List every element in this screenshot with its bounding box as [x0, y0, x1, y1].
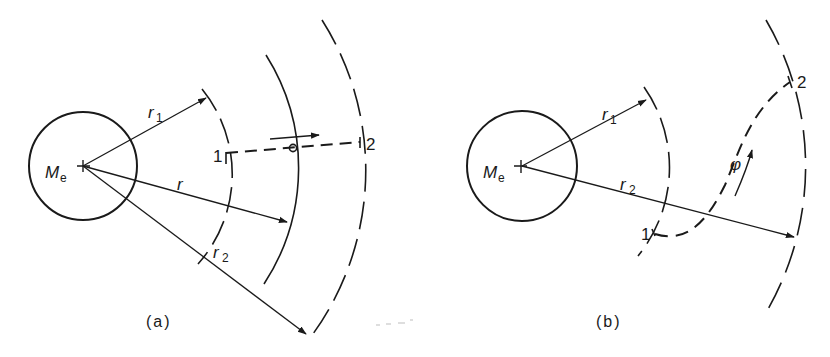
point-2-label: 2 [366, 135, 375, 154]
point-2-label: 2 [797, 73, 806, 92]
radius-r1-arrow [522, 100, 646, 166]
radius-r2-arrow [83, 166, 306, 334]
mass-subscript: e [498, 171, 505, 185]
panel-a: M e r 1 r r 2 1 2 (a) [29, 20, 413, 338]
radius-r1-label: r [602, 105, 609, 124]
orbit-r1-arc [198, 89, 232, 264]
mass-subscript: e [60, 171, 67, 185]
scan-noise [376, 320, 413, 325]
curved-transfer-path [655, 82, 790, 236]
radius-r1-subscript: 1 [610, 113, 617, 127]
point-1-label: 1 [641, 225, 650, 244]
direction-arrow [270, 135, 319, 139]
orbit-r2-arc [764, 20, 806, 316]
radius-r2-label: r [213, 243, 220, 262]
orbit-transfer-figure: M e r 1 r r 2 1 2 (a) M [0, 0, 830, 357]
radius-r2-subscript: 2 [629, 183, 636, 197]
mass-label: M [483, 163, 498, 182]
radius-r2-subscript: 2 [222, 251, 229, 265]
radius-r-label: r [177, 175, 184, 194]
mass-label: M [45, 163, 60, 182]
orbit-r-arc [264, 55, 299, 284]
radius-r2-label: r [620, 175, 627, 194]
radius-r1-label: r [148, 103, 155, 122]
point-1-label: 1 [213, 147, 222, 166]
panel-b: M e r 1 r 2 1 2 φ (b) [467, 20, 806, 330]
radius-r1-arrow [83, 98, 206, 166]
panel-b-caption: (b) [596, 313, 622, 330]
panel-a-caption: (a) [146, 313, 172, 330]
orbit-r2-arc [310, 20, 366, 338]
radius-r1-subscript: 1 [156, 111, 163, 125]
angle-phi-label: φ [730, 155, 741, 174]
radius-r-arrow [83, 166, 287, 222]
